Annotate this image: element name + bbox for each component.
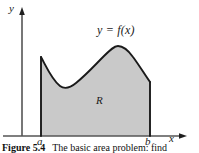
y-axis-arrow-icon — [19, 7, 25, 15]
shaded-region-R — [41, 46, 150, 136]
caption-text: The basic area problem: find — [52, 142, 167, 153]
caption-number: Figure 5.4 — [2, 142, 45, 153]
figure-container: y x a b R y = f(x) Figure 5.4 The basic … — [0, 0, 199, 153]
figure-caption: Figure 5.4 The basic area problem: find — [0, 142, 199, 153]
function-equation-label: y = f(x) — [97, 24, 135, 36]
x-axis-arrow-icon — [179, 133, 187, 139]
y-axis-label: y — [9, 3, 14, 14]
region-label-R: R — [96, 95, 103, 106]
